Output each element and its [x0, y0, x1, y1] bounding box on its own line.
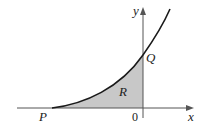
diagram-canvas: y x 0 Q P R [0, 0, 205, 128]
region-r-shading [52, 55, 143, 108]
y-axis-arrow-icon [140, 7, 146, 15]
point-q-label: Q [146, 50, 156, 65]
region-r-label: R [118, 84, 127, 99]
y-axis-label: y [131, 3, 139, 18]
point-p-label: P [38, 109, 47, 124]
origin-label: 0 [132, 110, 138, 124]
x-axis-label: x [187, 109, 194, 124]
